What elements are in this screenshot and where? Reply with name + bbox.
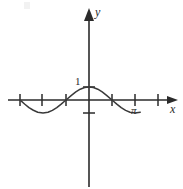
graph-figure: y x 1 π — [0, 0, 183, 189]
x-pi-label: π — [131, 104, 137, 116]
y-axis-label: y — [94, 5, 101, 19]
y-one-label: 1 — [75, 75, 81, 87]
coordinate-plane: y x 1 π — [0, 0, 183, 189]
y-axis-arrow — [84, 8, 94, 21]
x-axis-label: x — [169, 102, 176, 116]
